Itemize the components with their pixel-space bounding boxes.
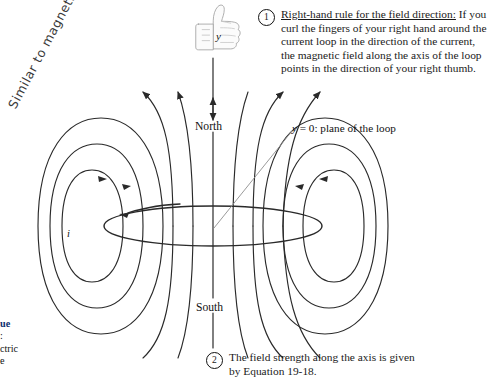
callout-field-strength: 2 The field strength along the axis is g…	[206, 351, 416, 378]
pole-label-north: North	[195, 120, 222, 133]
field-loops-right	[263, 118, 388, 334]
callout-1-lead: Right-hand rule for the field direction:	[281, 8, 456, 20]
callout-number-1: 1	[258, 9, 275, 26]
callout-1-body: Right-hand rule for the field direction:…	[278, 8, 491, 76]
margin-column-fragment: ue : ctric e	[0, 318, 44, 368]
current-label: i	[67, 228, 70, 239]
callout-2-text: The field strength along the axis is giv…	[226, 351, 416, 378]
open-field-lines-left	[143, 92, 193, 358]
magnetic-field-loop-figure: y North South y = 0: plane of the loop i…	[0, 0, 491, 381]
margin-fragment-line-4: e	[0, 355, 44, 367]
margin-fragment-bold: ue	[0, 318, 44, 330]
axis-label-y: y	[216, 30, 221, 42]
callout-right-hand-rule: 1 Right-hand rule for the field directio…	[258, 8, 491, 76]
plane-label: y = 0: plane of the loop	[292, 122, 396, 134]
thumbs-up-icon	[196, 5, 240, 50]
field-loops-left	[38, 118, 163, 334]
margin-fragment-line-3: ctric	[0, 343, 44, 355]
margin-fragment-line-2: :	[0, 330, 44, 342]
pole-label-south: South	[196, 301, 223, 314]
callout-number-2: 2	[206, 352, 223, 369]
plane-label-text: = 0: plane of the loop	[297, 122, 396, 134]
